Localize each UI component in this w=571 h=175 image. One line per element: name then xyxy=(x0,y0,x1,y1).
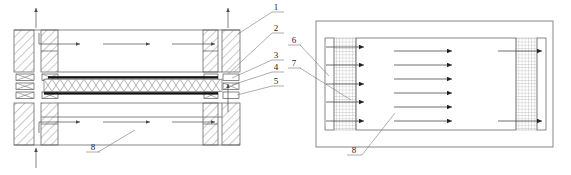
callout-1: 1 xyxy=(274,2,279,12)
right-inner-block-upper xyxy=(203,30,218,72)
right-plan-view xyxy=(288,21,553,155)
left-cross-section-view xyxy=(14,8,284,168)
callout-4: 4 xyxy=(274,62,279,72)
callout-7: 7 xyxy=(292,58,297,68)
callout-8-right: 8 xyxy=(352,145,357,155)
callout-2: 2 xyxy=(274,23,279,33)
right-end-block-lower xyxy=(222,103,240,145)
core-top-plate xyxy=(48,76,218,78)
left-gasket-stack xyxy=(16,74,34,99)
callout-6: 6 xyxy=(292,35,297,45)
callout-8-left: 8 xyxy=(91,142,96,152)
callout-5: 5 xyxy=(274,76,279,86)
upper-flow-arrows xyxy=(39,33,215,44)
left-inner-block-upper xyxy=(41,30,58,72)
core-assembly xyxy=(44,76,222,94)
right-header-bar xyxy=(537,38,546,130)
core-bottom-plate xyxy=(44,92,218,94)
left-inner-block-lower xyxy=(41,103,58,145)
drawing-svg: 1 2 3 4 5 8 6 7 8 xyxy=(0,0,571,175)
callout-3: 3 xyxy=(274,50,279,60)
lower-flow-arrows xyxy=(39,122,215,133)
right-gasket-stack xyxy=(223,74,239,99)
right-inner-block-lower xyxy=(203,103,218,145)
figure-canvas: 1 2 3 4 5 8 6 7 8 xyxy=(0,0,571,175)
left-end-block-upper xyxy=(14,30,34,72)
right-grid-hatch-field xyxy=(516,38,537,130)
left-end-block-lower xyxy=(14,103,34,145)
